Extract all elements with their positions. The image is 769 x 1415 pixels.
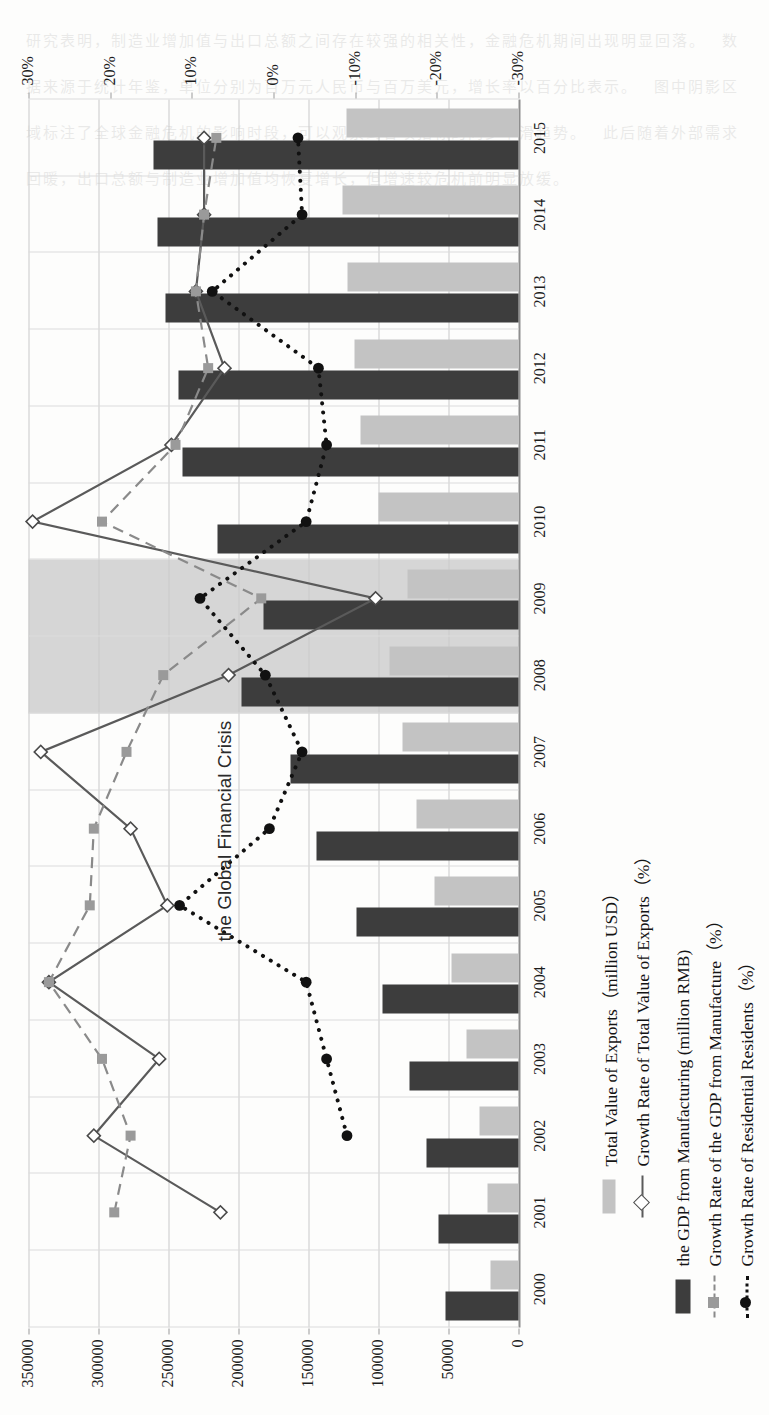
y-axis-tick [518, 1328, 519, 1334]
marker-diamond [213, 1205, 226, 1218]
y2-axis-tick [191, 92, 192, 98]
marker-diamond [217, 361, 230, 374]
marker-square [121, 746, 131, 756]
chart-canvas: the Global Financial Crisis 050000100000… [0, 0, 769, 1415]
legend-key [737, 1275, 753, 1317]
y2-axis-tick-label: 30% [18, 56, 36, 85]
legend-line-dashed [713, 1275, 715, 1317]
crisis-annotation-label: the Global Financial Crisis [213, 720, 235, 941]
marker-circle [264, 823, 275, 834]
legend-marker-square-icon [707, 1297, 718, 1308]
y-axis-tick-label: 350000 [18, 1339, 36, 1415]
marker-circle [300, 516, 311, 527]
marker-circle [296, 746, 307, 757]
legend-key [705, 1275, 721, 1317]
x-axis-tick-label: 2014 [530, 176, 548, 253]
marker-square [97, 516, 107, 526]
marker-diamond [222, 668, 235, 681]
marker-square [109, 1207, 119, 1217]
y-axis-tick [448, 1328, 449, 1334]
y-axis-tick-label: 50000 [438, 1339, 456, 1415]
legend-label: Total Value of Exports（million USD） [596, 885, 621, 1166]
marker-diamond [197, 131, 210, 144]
x-axis-tick-label: 2009 [530, 560, 548, 637]
marker-square [88, 823, 98, 833]
legend-bottom-item: the GDP from Manufacturing (million RMB) [672, 912, 693, 1317]
legend-swatch-bar-light [602, 1179, 615, 1213]
marker-square [199, 209, 209, 219]
legend-bottom-item: Growth Rate of Residential Residents（%） [732, 912, 757, 1317]
y2-axis-tick [355, 92, 356, 98]
line-series-layer [28, 99, 518, 1327]
legend-label: Growth Rate of Residential Residents（%） [732, 953, 757, 1266]
legend-bottom: the GDP from Manufacturing (million RMB)… [672, 912, 764, 1317]
x-axis-tick-label: 2007 [530, 713, 548, 790]
legend-bottom-item: Growth Rate of the GDP from Manufacture（… [700, 912, 725, 1317]
x-axis-tick-label: 2010 [530, 483, 548, 560]
marker-square [256, 593, 266, 603]
y-axis-tick [98, 1328, 99, 1334]
y-axis-tick-label: 150000 [298, 1339, 316, 1415]
marker-square [170, 439, 180, 449]
y-axis-tick [168, 1328, 169, 1334]
legend-top: Total Value of Exports（million USD）Growt… [596, 847, 660, 1217]
y-axis-tick-label: 0 [508, 1339, 526, 1415]
legend-top-item: Growth Rate of Total Value of Exports（%） [628, 847, 653, 1217]
marker-circle [296, 209, 307, 220]
legend-key [633, 1175, 649, 1217]
y-axis-tick [378, 1328, 379, 1334]
marker-circle [206, 285, 217, 296]
marker-circle [321, 1053, 332, 1064]
y2-axis-tick [436, 92, 437, 98]
x-axis-tick-label: 2004 [530, 943, 548, 1020]
y2-axis-tick [110, 92, 111, 98]
line-solid [32, 137, 375, 1212]
marker-diamond [26, 515, 39, 528]
marker-square [97, 1053, 107, 1063]
x-axis-tick-label: 2012 [530, 329, 548, 406]
marker-diamond [369, 591, 382, 604]
x-axis-tick-label: 2015 [530, 99, 548, 176]
legend-top-item: Total Value of Exports（million USD） [596, 847, 621, 1217]
marker-diamond [152, 1052, 165, 1065]
marker-square [211, 132, 221, 142]
y2-axis-tick-label: 20% [100, 56, 118, 85]
y2-axis-tick-label: -10% [345, 50, 363, 85]
marker-square [84, 900, 94, 910]
y2-axis-tick-label: 10% [181, 56, 199, 85]
legend-key [601, 1175, 617, 1217]
legend-swatch-bar-dark [675, 1279, 690, 1313]
legend-marker-circle-icon [739, 1297, 750, 1308]
marker-circle [313, 362, 324, 373]
legend-label: the GDP from Manufacturing (million RMB) [672, 949, 693, 1266]
y-axis-tick-label: 200000 [228, 1339, 246, 1415]
marker-square [190, 286, 200, 296]
x-axis-tick-label: 2005 [530, 867, 548, 944]
y-axis-tick [28, 1328, 29, 1334]
x-axis-tick-label: 2000 [530, 1250, 548, 1327]
y2-axis-tick [28, 92, 29, 98]
y-axis-tick [238, 1328, 239, 1334]
legend-label: Growth Rate of Total Value of Exports（%） [628, 847, 653, 1166]
marker-circle [174, 899, 185, 910]
y-axis-tick-label: 100000 [368, 1339, 386, 1415]
y2-axis-tick-label: -20% [426, 50, 444, 85]
y2-axis-tick-label: -30% [508, 50, 526, 85]
legend-marker-diamond-icon [632, 1194, 649, 1211]
y-axis-tick-label: 250000 [158, 1339, 176, 1415]
y-axis-tick-label: 300000 [88, 1339, 106, 1415]
legend-label: Growth Rate of the GDP from Manufacture（… [700, 912, 725, 1266]
x-axis-tick-label: 2006 [530, 790, 548, 867]
x-axis-tick-label: 2011 [530, 406, 548, 483]
marker-circle [321, 439, 332, 450]
x-axis-tick-label: 2008 [530, 636, 548, 713]
marker-circle [194, 592, 205, 603]
y2-axis-tick-label: 0% [263, 64, 281, 85]
marker-square [203, 363, 213, 373]
y-axis-tick [308, 1328, 309, 1334]
marker-square [125, 1130, 135, 1140]
x-axis-tick-label: 2002 [530, 1097, 548, 1174]
marker-square [158, 670, 168, 680]
plot-area: the Global Financial Crisis [28, 99, 518, 1327]
marker-circle [292, 132, 303, 143]
